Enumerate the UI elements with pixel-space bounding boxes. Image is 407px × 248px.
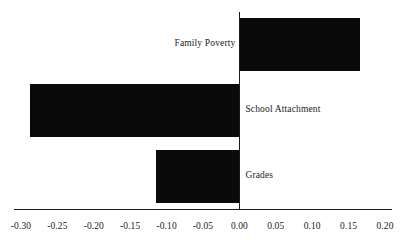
x-tick-label-10: 0.20 bbox=[365, 222, 405, 232]
bar-family-poverty bbox=[239, 18, 360, 71]
x-tick-label-0: -0.30 bbox=[1, 222, 41, 232]
x-tick-label-8: 0.10 bbox=[292, 222, 332, 232]
x-tick-label-7: 0.05 bbox=[256, 222, 296, 232]
zero-reference-line bbox=[239, 12, 240, 209]
x-tick-label-1: -0.25 bbox=[37, 222, 77, 232]
x-axis-baseline bbox=[14, 209, 392, 210]
x-tick-label-9: 0.15 bbox=[329, 222, 369, 232]
plot-area: Family PovertySchool AttachmentGrades-0.… bbox=[0, 0, 407, 248]
category-label-grades: Grades bbox=[245, 171, 273, 181]
category-label-family-poverty: Family Poverty bbox=[174, 39, 235, 49]
category-label-school-attachment: School Attachment bbox=[245, 105, 320, 115]
x-tick-label-3: -0.15 bbox=[110, 222, 150, 232]
x-tick-label-6: 0.00 bbox=[219, 222, 259, 232]
bar-school-attachment bbox=[30, 84, 240, 137]
x-tick-label-2: -0.20 bbox=[74, 222, 114, 232]
x-tick-label-4: -0.10 bbox=[147, 222, 187, 232]
bar-chart-figure: Family PovertySchool AttachmentGrades-0.… bbox=[0, 0, 407, 248]
bar-grades bbox=[156, 150, 239, 203]
x-tick-label-5: -0.05 bbox=[183, 222, 223, 232]
